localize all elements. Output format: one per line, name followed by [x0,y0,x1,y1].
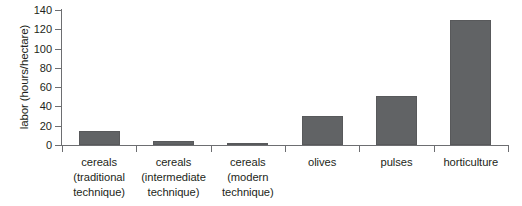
bar [376,96,417,145]
x-axis-category-label-line: pulses [359,155,433,170]
x-axis-category-label-line: (modern [211,170,285,185]
y-axis-tick-label-wrap: 100 [20,44,52,55]
y-axis-tick-label-wrap: 20 [20,121,52,132]
x-axis-category-label: cereals(moderntechnique) [211,155,285,200]
y-axis-tick-label: 20 [24,121,52,132]
bar-chart: labor (hours/hectare) 020406080100120140… [0,0,522,206]
x-axis-tick [434,146,435,152]
y-axis-tick-label: 140 [24,5,52,16]
y-axis-tick-label: 120 [24,24,52,35]
x-axis-tick [62,146,63,152]
y-axis-tick-label: 60 [24,82,52,93]
x-axis-category-label-line: cereals [62,155,136,170]
bar [227,143,268,145]
x-axis-category-label-line: cereals [136,155,210,170]
y-axis-tick-label: 40 [24,101,52,112]
y-axis-tick-label: 100 [24,44,52,55]
x-axis-category-label: pulses [359,155,433,170]
x-axis-category-label-line: olives [285,155,359,170]
x-axis-tick [211,146,212,152]
x-axis-category-label-line: technique) [136,185,210,200]
x-axis-category-label: cereals(intermediatetechnique) [136,155,210,200]
bar [450,20,491,145]
x-axis-tick [508,146,509,152]
x-axis-category-label-line: technique) [62,185,136,200]
x-axis-tick [285,146,286,152]
plot-area [62,10,508,145]
y-axis-tick-label-wrap: 120 [20,24,52,35]
y-axis-tick-label: 80 [24,63,52,74]
x-axis-category-label-line: cereals [211,155,285,170]
bar [79,131,120,145]
x-axis-category-label: olives [285,155,359,170]
x-axis-category-label-line: horticulture [434,155,508,170]
x-axis-category-label-line: (intermediate [136,170,210,185]
x-axis-tick [136,146,137,152]
y-axis-tick-label-wrap: 140 [20,5,52,16]
x-axis-category-label: horticulture [434,155,508,170]
y-axis-tick-label-wrap: 80 [20,63,52,74]
y-axis-tick-label-wrap: 60 [20,82,52,93]
bar [153,141,194,145]
bar [302,116,343,145]
x-axis-category-label: cereals(traditionaltechnique) [62,155,136,200]
x-axis-category-label-line: (traditional [62,170,136,185]
y-axis-tick-label-wrap: 0 [20,140,52,151]
x-axis-category-label-line: technique) [211,185,285,200]
x-axis-tick [359,146,360,152]
y-axis-tick-label: 0 [24,140,52,151]
y-axis-tick-label-wrap: 40 [20,101,52,112]
